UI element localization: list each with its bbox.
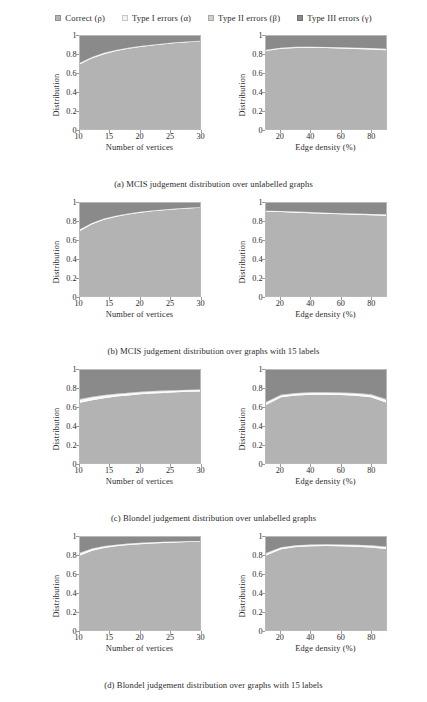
x-tick-label: 20 xyxy=(276,633,284,642)
chart-caption-c: (c) Blondel judgement distribution over … xyxy=(0,513,427,523)
x-tick-label: 15 xyxy=(105,466,113,475)
y-tick-label: 0 xyxy=(55,460,77,469)
y-tick-label: 0.4 xyxy=(55,422,77,431)
chart-row-a-panels: Distribution00.20.40.60.811015202530Numb… xyxy=(0,26,427,161)
x-tick-label: 40 xyxy=(306,633,314,642)
x-tick-label: 25 xyxy=(166,633,174,642)
chart-c-vertices-plot-area xyxy=(79,369,201,464)
y-tick-label: 0.8 xyxy=(241,384,263,393)
y-tick-label: 0.6 xyxy=(241,69,263,78)
x-axis-label: Edge density (%) xyxy=(265,310,387,319)
chart-b-density-panel: Distribution00.20.40.60.8120406080Edge d… xyxy=(221,196,393,328)
chart-rows: Distribution00.20.40.60.811015202530Numb… xyxy=(0,26,427,694)
x-tick-label: 10 xyxy=(74,466,82,475)
y-axis-ticks: 00.20.40.60.81 xyxy=(237,202,263,297)
chart-c-density-panel: Distribution00.20.40.60.8120406080Edge d… xyxy=(221,363,393,495)
x-tick-label: 80 xyxy=(367,132,375,141)
x-tick-label: 30 xyxy=(196,299,204,308)
chart-c-vertices-panel: Distribution00.20.40.60.811015202530Numb… xyxy=(35,363,207,495)
x-axis-label: Number of vertices xyxy=(79,477,201,486)
x-tick-label: 25 xyxy=(166,466,174,475)
y-tick-mark xyxy=(262,130,265,131)
x-tick-label: 30 xyxy=(196,466,204,475)
y-axis-ticks: 00.20.40.60.81 xyxy=(237,369,263,464)
x-tick-label: 60 xyxy=(337,466,345,475)
y-tick-label: 1 xyxy=(241,31,263,40)
x-tick-label: 10 xyxy=(74,633,82,642)
chart-d-density-panel: Distribution00.20.40.60.8120406080Edge d… xyxy=(221,530,393,662)
chart-caption-a: (a) MCIS judgement distribution over unl… xyxy=(0,179,427,189)
x-tick-label: 10 xyxy=(74,299,82,308)
x-tick-label: 20 xyxy=(135,466,143,475)
y-tick-label: 0.6 xyxy=(55,236,77,245)
x-tick-label: 60 xyxy=(337,132,345,141)
y-tick-label: 1 xyxy=(55,365,77,374)
x-axis-label: Edge density (%) xyxy=(265,644,387,653)
y-axis-ticks: 00.20.40.60.81 xyxy=(237,536,263,631)
y-tick-label: 0.4 xyxy=(241,422,263,431)
x-tick-label: 15 xyxy=(105,299,113,308)
area-correct xyxy=(266,395,386,463)
y-tick-label: 1 xyxy=(55,31,77,40)
x-tick-label: 15 xyxy=(105,633,113,642)
legend-swatch-type2 xyxy=(208,15,214,21)
x-tick-label: 25 xyxy=(166,299,174,308)
x-tick-label: 80 xyxy=(367,299,375,308)
y-tick-label: 1 xyxy=(241,532,263,541)
x-tick-label: 20 xyxy=(276,466,284,475)
y-tick-label: 0.4 xyxy=(55,589,77,598)
y-tick-label: 0.2 xyxy=(241,608,263,617)
x-tick-label: 25 xyxy=(166,132,174,141)
y-tick-label: 0.6 xyxy=(241,236,263,245)
y-axis-ticks: 00.20.40.60.81 xyxy=(51,35,77,130)
x-tick-label: 20 xyxy=(135,132,143,141)
x-tick-label: 60 xyxy=(337,299,345,308)
area-correct xyxy=(266,546,386,630)
chart-c-density-plot-area xyxy=(265,369,387,464)
chart-b-density-plot-area xyxy=(265,202,387,297)
legend-label-type1: Type I errors (α) xyxy=(132,13,191,23)
y-tick-label: 0.8 xyxy=(241,217,263,226)
chart-row-b: Distribution00.20.40.60.811015202530Numb… xyxy=(0,193,427,360)
x-tick-label: 80 xyxy=(367,466,375,475)
y-tick-label: 0.4 xyxy=(55,88,77,97)
chart-a-density-plot-area xyxy=(265,35,387,130)
y-axis-ticks: 00.20.40.60.81 xyxy=(51,202,77,297)
chart-legend: Correct (ρ) Type I errors (α) Type II er… xyxy=(0,0,427,26)
chart-d-vertices-plot-area xyxy=(79,536,201,631)
y-tick-mark xyxy=(262,297,265,298)
y-tick-label: 0 xyxy=(241,627,263,636)
legend-swatch-correct xyxy=(55,15,61,21)
legend-swatch-type1 xyxy=(122,15,128,21)
x-tick-label: 15 xyxy=(105,132,113,141)
area-correct xyxy=(266,48,386,129)
chart-d-vertices-panel: Distribution00.20.40.60.811015202530Numb… xyxy=(35,530,207,662)
y-tick-label: 1 xyxy=(55,532,77,541)
chart-d-density-plot-area xyxy=(265,536,387,631)
y-tick-label: 0.8 xyxy=(55,217,77,226)
y-tick-label: 0.6 xyxy=(241,570,263,579)
y-tick-label: 0.6 xyxy=(55,69,77,78)
y-tick-label: 0.4 xyxy=(241,589,263,598)
area-correct xyxy=(80,542,200,630)
legend-entry-type1: Type I errors (α) xyxy=(122,13,191,23)
x-axis-label: Edge density (%) xyxy=(265,143,387,152)
x-tick-label: 40 xyxy=(306,466,314,475)
y-tick-label: 0 xyxy=(55,293,77,302)
y-tick-label: 1 xyxy=(55,198,77,207)
legend-label-type3: Type III errors (γ) xyxy=(307,13,372,23)
y-tick-label: 0.2 xyxy=(241,107,263,116)
y-tick-label: 0 xyxy=(55,126,77,135)
y-tick-label: 0 xyxy=(55,627,77,636)
chart-row-b-panels: Distribution00.20.40.60.811015202530Numb… xyxy=(0,193,427,328)
y-tick-label: 0.2 xyxy=(55,107,77,116)
y-tick-label: 0.4 xyxy=(241,255,263,264)
y-tick-label: 0.2 xyxy=(241,441,263,450)
area-correct xyxy=(80,391,200,463)
x-tick-label: 20 xyxy=(276,132,284,141)
y-tick-label: 0.4 xyxy=(55,255,77,264)
chart-caption-b: (b) MCIS judgement distribution over gra… xyxy=(0,346,427,356)
legend-entry-correct: Correct (ρ) xyxy=(55,13,105,23)
y-tick-label: 0.6 xyxy=(55,570,77,579)
y-tick-label: 0.8 xyxy=(55,384,77,393)
